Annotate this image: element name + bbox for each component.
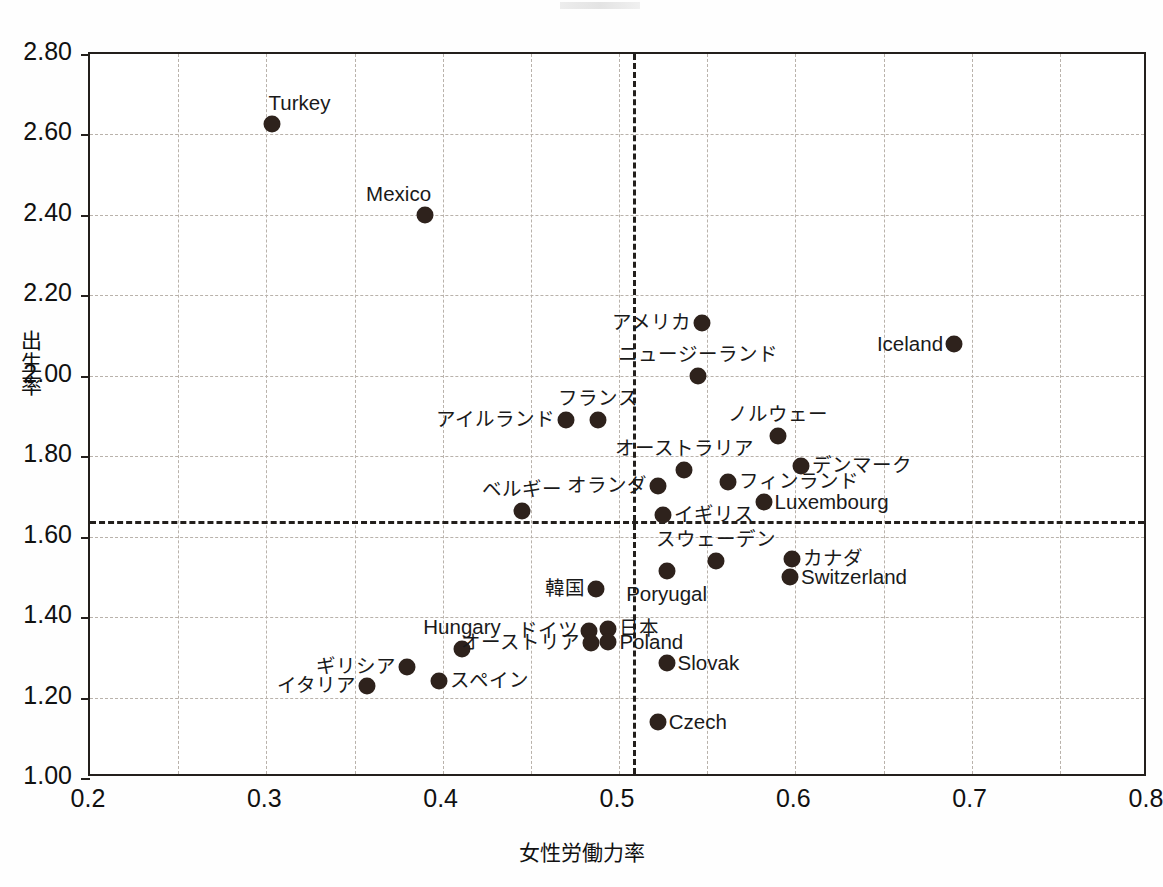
data-point[interactable] xyxy=(658,654,675,671)
data-point[interactable] xyxy=(649,478,666,495)
y-tick-mark xyxy=(81,617,90,619)
y-tick-mark xyxy=(81,698,90,700)
gridline-horizontal xyxy=(90,698,1144,699)
data-point[interactable] xyxy=(658,562,675,579)
data-point[interactable] xyxy=(693,315,710,332)
x-tick-label: 0.7 xyxy=(952,784,987,813)
gridline-vertical xyxy=(619,54,620,774)
data-point[interactable] xyxy=(399,658,416,675)
y-tick-mark xyxy=(81,456,90,458)
reference-line-horizontal xyxy=(90,521,1144,524)
gridline-horizontal xyxy=(90,295,1144,296)
y-tick-mark xyxy=(81,215,90,217)
data-point[interactable] xyxy=(600,634,617,651)
x-tick-label: 0.4 xyxy=(423,784,458,813)
data-point[interactable] xyxy=(263,116,280,133)
y-tick-label: 2.60 xyxy=(23,117,72,146)
data-point[interactable] xyxy=(514,502,531,519)
data-point[interactable] xyxy=(582,635,599,652)
top-edge-artifact xyxy=(560,2,640,9)
data-point[interactable] xyxy=(769,428,786,445)
data-point-label: ノルウェー xyxy=(728,405,828,425)
y-tick-mark xyxy=(81,778,90,780)
data-point[interactable] xyxy=(755,494,772,511)
data-point-label: Switzerland xyxy=(801,567,907,588)
gridline-vertical xyxy=(266,54,267,774)
gridline-horizontal xyxy=(90,215,1144,216)
data-point-label: オーストラリア xyxy=(615,439,754,459)
x-tick-label: 0.3 xyxy=(247,784,282,813)
y-tick-mark xyxy=(81,376,90,378)
data-point-label: Turkey xyxy=(269,93,331,114)
data-point-label: 韓国 xyxy=(545,579,585,599)
gridline-horizontal xyxy=(90,134,1144,135)
data-point[interactable] xyxy=(946,335,963,352)
gridline-horizontal xyxy=(90,376,1144,377)
data-point[interactable] xyxy=(588,580,605,597)
y-axis-tick-labels: 1.001.201.401.601.802.002.202.402.602.80 xyxy=(0,52,80,776)
x-tick-label: 0.8 xyxy=(1129,784,1163,813)
y-tick-label: 1.00 xyxy=(23,761,72,790)
data-point[interactable] xyxy=(417,206,434,223)
y-tick-mark xyxy=(81,295,90,297)
data-point[interactable] xyxy=(783,550,800,567)
data-point-label: Mexico xyxy=(366,184,431,205)
plot-area: TurkeyMexicoアメリカIcelandニュージーランドフランスアイルラン… xyxy=(88,52,1146,776)
y-tick-label: 2.20 xyxy=(23,278,72,307)
data-point[interactable] xyxy=(690,367,707,384)
x-tick-label: 0.2 xyxy=(71,784,106,813)
data-point-label: アイルランド xyxy=(436,410,555,430)
gridline-horizontal xyxy=(90,617,1144,618)
data-point[interactable] xyxy=(358,678,375,695)
gridline-horizontal xyxy=(90,537,1144,538)
y-tick-label: 1.20 xyxy=(23,680,72,709)
data-point-label: アメリカ xyxy=(612,314,691,334)
gridline-vertical-minor xyxy=(1060,54,1061,774)
x-axis-title: 女性労働力率 xyxy=(0,836,1163,866)
x-axis-tick-labels: 0.20.30.40.50.60.70.8 xyxy=(88,784,1146,824)
y-tick-label: 1.60 xyxy=(23,520,72,549)
data-point-label: Slovak xyxy=(678,652,740,673)
gridline-vertical-minor xyxy=(178,54,179,774)
data-point-label: スペイン xyxy=(450,672,529,692)
data-point[interactable] xyxy=(589,412,606,429)
data-point[interactable] xyxy=(707,552,724,569)
y-tick-mark xyxy=(81,54,90,56)
data-point-label: Czech xyxy=(669,711,727,732)
data-point-label: ギリシア xyxy=(316,657,396,677)
data-point-label: Luxembourg xyxy=(775,492,889,513)
data-point[interactable] xyxy=(558,412,575,429)
data-point[interactable] xyxy=(720,474,737,491)
x-tick-label: 0.6 xyxy=(776,784,811,813)
y-tick-mark xyxy=(81,134,90,136)
data-point-label: Iceland xyxy=(877,333,943,354)
y-tick-label: 2.40 xyxy=(23,198,72,227)
data-point[interactable] xyxy=(782,568,799,585)
y-tick-label: 1.80 xyxy=(23,439,72,468)
data-point[interactable] xyxy=(676,462,693,479)
data-point-label: Poland xyxy=(619,632,683,653)
gridline-vertical-minor xyxy=(884,54,885,774)
data-point-label: フィンランド xyxy=(739,473,859,493)
data-point-label: Hungary xyxy=(423,617,501,638)
data-point-label: Poryugal xyxy=(626,583,707,604)
data-point-label: イギリス xyxy=(674,505,754,525)
data-point-label: イタリア xyxy=(277,677,356,697)
x-tick-label: 0.5 xyxy=(600,784,635,813)
data-point-label: スウェーデン xyxy=(656,529,776,549)
data-point-label: フランス xyxy=(558,389,638,409)
y-tick-label: 2.80 xyxy=(23,37,72,66)
data-point[interactable] xyxy=(649,713,666,730)
data-point-label: オランダ xyxy=(567,477,647,497)
y-tick-label: 1.40 xyxy=(23,600,72,629)
chart-canvas: 出生率 1.001.201.401.601.802.002.202.402.60… xyxy=(0,0,1163,887)
data-point[interactable] xyxy=(431,673,448,690)
data-point-label: ベルギー xyxy=(482,479,562,499)
y-tick-mark xyxy=(81,537,90,539)
y-tick-label: 2.00 xyxy=(23,359,72,388)
reference-line-vertical xyxy=(633,54,636,774)
data-point-label: ニュージーランド xyxy=(618,344,778,364)
data-point[interactable] xyxy=(655,506,672,523)
gridline-vertical xyxy=(972,54,973,774)
